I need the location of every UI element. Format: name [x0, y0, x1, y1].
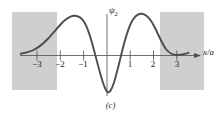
y-axis-label-subscript: 2: [115, 10, 118, 17]
y-axis-label: ψ2: [109, 6, 118, 17]
x-tick-label-3: 3: [170, 60, 184, 69]
x-tick-label--3: −3: [29, 60, 45, 69]
x-tick-label-2: 2: [146, 60, 160, 69]
x-tick-label-1: 1: [123, 60, 137, 69]
x-axis-label: x/a: [203, 48, 214, 57]
x-tick-label--1: −1: [75, 60, 91, 69]
x-tick-label--2: −2: [52, 60, 68, 69]
wavefunction-figure: −3 −2 −1 1 2 3 ψ2 x/a (c): [0, 0, 221, 120]
figure-caption: (c): [0, 101, 221, 110]
forbidden-region-left: [12, 12, 57, 90]
